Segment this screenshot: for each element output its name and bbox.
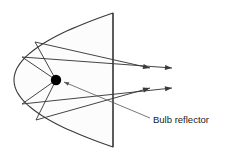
bulb-source	[51, 75, 61, 85]
bulb-reflector-label: Bulb reflector	[153, 114, 209, 125]
bulb-reflector-diagram: Bulb reflector	[0, 0, 229, 153]
